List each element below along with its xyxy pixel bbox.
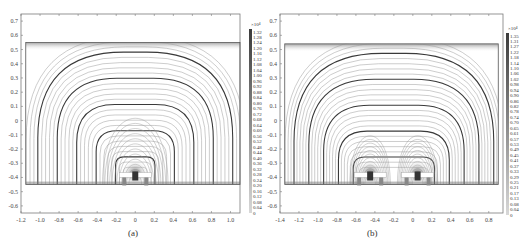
x-tick-label: -0.2	[389, 217, 399, 223]
colorbar-tick-label: 0.08	[510, 202, 519, 207]
colorbar-tick-label: 0.64	[253, 123, 262, 128]
caption-b: (b)	[367, 228, 378, 238]
colorbar-tick-label: 0.96	[253, 79, 262, 84]
y-tick-label: -0.3	[9, 160, 19, 166]
y-tick-label: -0.2	[9, 146, 19, 152]
x-tick-label: -0.6	[351, 217, 361, 223]
colorbar-tick-label: 0.41	[510, 158, 519, 163]
contour-plot-a: -1.2-1.0-0.8-0.6-0.4-0.200.20.40.60.81.0…	[0, 0, 270, 247]
colorbar-tick-label: 0.36	[253, 161, 262, 166]
colorbar-tick-label: 1.10	[510, 66, 519, 71]
colorbar-tick-label: 1.14	[510, 61, 519, 66]
y-tick-label: -0.2	[268, 146, 278, 152]
colorbar-tick-label: 0.40	[253, 156, 262, 161]
colorbar-tick-label: 0.86	[510, 99, 519, 104]
colorbar-tick-label: 0.78	[510, 109, 519, 114]
y-tick-label: 0.6	[11, 32, 19, 38]
y-tick-label: 0.1	[11, 103, 19, 109]
colorbar-tick-label: 1.28	[253, 35, 262, 40]
colorbar-tick-label: 1.31	[510, 39, 519, 44]
y-tick-label: -0.3	[268, 160, 278, 166]
x-tick-label: -1.0	[313, 217, 323, 223]
y-tick-label: -0.5	[268, 189, 278, 195]
colorbar-tick-label: 0.74	[510, 115, 519, 120]
y-tick-label: 0.3	[11, 75, 19, 81]
x-tick-label: 0.8	[485, 217, 493, 223]
y-tick-label: -0.6	[268, 203, 278, 209]
colorbar-tick-label: 0.25	[510, 180, 519, 185]
y-tick-label: 0.6	[270, 32, 278, 38]
colorbar-tick-label: 1.32	[253, 30, 262, 35]
colorbar-exponent: ×10⁴	[508, 26, 518, 31]
caption-a: (a)	[128, 228, 138, 238]
chart-panel-a: -1.2-1.0-0.8-0.6-0.4-0.200.20.40.60.81.0…	[0, 0, 270, 247]
y-tick-label: -0.4	[9, 174, 19, 180]
colorbar-tick-label: 1.20	[253, 46, 262, 51]
colorbar-tick-label: 0	[253, 211, 256, 216]
colorbar-tick-label: 0.04	[510, 207, 519, 212]
colorbar-tick-label: 1.04	[253, 68, 262, 73]
x-tick-label: -1.2	[294, 217, 304, 223]
chart-panel-b: -1.4-1.2-1.0-0.8-0.6-0.4-0.200.20.40.60.…	[262, 0, 528, 247]
colorbar-tick-label: 0.29	[510, 175, 519, 180]
colorbar-tick-label: 1.22	[510, 50, 519, 55]
y-tick-label: 0.4	[11, 61, 19, 67]
colorbar-tick-label: 0.70	[510, 120, 519, 125]
colorbar-tick-label: 1.02	[510, 77, 519, 82]
colorbar-tick-label: 0.57	[510, 137, 519, 142]
colorbar-tick-label: 0.04	[253, 205, 262, 210]
colorbar-tick-label: 1.12	[253, 57, 262, 62]
x-tick-label: 0.4	[447, 217, 455, 223]
contour-plot-b: -1.4-1.2-1.0-0.8-0.6-0.4-0.200.20.40.60.…	[262, 0, 528, 247]
colorbar-tick-label: 0.80	[253, 101, 262, 106]
x-tick-label: 0.2	[428, 217, 436, 223]
colorbar-tick-label: 0.52	[253, 139, 262, 144]
colorbar-tick-label: 0.13	[510, 196, 519, 201]
y-tick-label: 0.7	[270, 18, 278, 24]
colorbar-tick-label: 0.44	[253, 150, 262, 155]
colorbar-tick-label: 0.61	[510, 131, 519, 136]
y-tick-label: 0.3	[270, 75, 278, 81]
x-tick-label: 0.4	[170, 217, 178, 223]
colorbar-tick-label: 0.53	[510, 142, 519, 147]
colorbar-tick-label: 1.00	[253, 73, 262, 78]
colorbar-tick-label: 0.37	[510, 164, 519, 169]
colorbar-tick-label: 0.28	[253, 172, 262, 177]
colorbar-tick-label: 0.20	[253, 183, 262, 188]
x-tick-label: 0.6	[466, 217, 474, 223]
x-tick-label: 0	[134, 217, 137, 223]
colorbar-tick-label: 0.08	[253, 200, 262, 205]
y-tick-label: 0.2	[11, 89, 19, 95]
x-tick-label: -0.2	[111, 217, 121, 223]
x-tick-label: -1.2	[16, 217, 26, 223]
colorbar-tick-label: 0.84	[253, 95, 262, 100]
colorbar-tick-label: 1.16	[253, 51, 262, 56]
x-tick-label: -0.8	[54, 217, 64, 223]
colorbar-tick-label: 0.21	[510, 185, 519, 190]
colorbar-tick-label: 1.18	[510, 55, 519, 60]
x-tick-label: -1.0	[35, 217, 45, 223]
y-tick-label: -0.1	[268, 132, 278, 138]
colorbar-tick-label: 0.88	[253, 90, 262, 95]
y-tick-label: 0.5	[270, 47, 278, 53]
colorbar-tick-label: 0.56	[253, 134, 262, 139]
y-tick-label: -0.4	[268, 174, 278, 180]
field-lines	[26, 36, 245, 187]
colorbar-tick-label: 1.35	[510, 34, 519, 39]
y-tick-label: 0.4	[270, 61, 278, 67]
colorbar-tick-label: 0.16	[253, 189, 262, 194]
x-tick-label: -1.4	[275, 217, 285, 223]
colorbar-tick-label: 0.65	[510, 126, 519, 131]
colorbar-tick-label: 0.68	[253, 117, 262, 122]
x-tick-label: -0.4	[92, 217, 102, 223]
colorbar-tick-label: 0	[510, 213, 513, 218]
x-tick-label: -0.8	[332, 217, 342, 223]
y-tick-label: 0.7	[11, 18, 19, 24]
colorbar-tick-label: 0.76	[253, 106, 262, 111]
x-tick-label: 1.0	[227, 217, 235, 223]
colorbar-tick-label: 0.82	[510, 104, 519, 109]
colorbar-tick-label: 0.17	[510, 191, 519, 196]
colorbar-tick-label: 0.90	[510, 93, 519, 98]
colorbar-exponent: ×10⁴	[251, 22, 261, 27]
x-tick-label: 0.6	[189, 217, 197, 223]
